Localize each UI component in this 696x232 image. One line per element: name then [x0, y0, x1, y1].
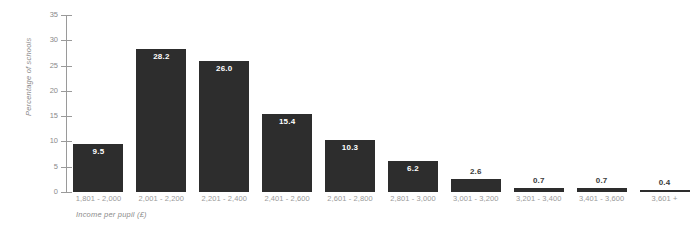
y-axis-tick-label: 25: [36, 62, 58, 70]
x-axis-tick-label: 2,601 - 2,800: [319, 194, 382, 203]
x-axis-tick-label: 2,201 - 2,400: [193, 194, 256, 203]
x-axis-tick-label: 3,401 - 3,600: [570, 194, 633, 203]
bar-value-label: 15.4: [262, 117, 312, 126]
bar-slot: 15.4: [262, 15, 312, 192]
bar[interactable]: [577, 188, 627, 192]
y-axis-title: Percentage of schools: [24, 0, 33, 116]
x-axis-tick-label: 3,001 - 3,200: [444, 194, 507, 203]
y-axis-tick-label: 15: [36, 112, 58, 120]
x-axis-tick-label: 2,401 - 2,600: [256, 194, 319, 203]
x-axis-tick-labels: 1,801 - 2,0002,001 - 2,2002,201 - 2,4002…: [67, 194, 696, 206]
y-axis-tick-mark: [61, 192, 72, 193]
x-axis-tick-label: 3,601 +: [633, 194, 696, 203]
bar[interactable]: [640, 190, 690, 192]
y-axis-tick-label: 10: [36, 137, 58, 145]
y-axis-tick-label: 20: [36, 87, 58, 95]
x-axis-title: Income per pupil (£): [76, 210, 147, 219]
bar[interactable]: [514, 188, 564, 192]
bar[interactable]: [199, 61, 249, 192]
bar-slot: 0.7: [514, 15, 564, 192]
bar-value-label: 6.2: [388, 164, 438, 173]
x-axis-tick-label: 1,801 - 2,000: [67, 194, 130, 203]
bar-value-label: 26.0: [199, 64, 249, 73]
y-axis-tick-label: 0: [36, 188, 58, 196]
bar-slot: 2.6: [451, 15, 501, 192]
bar[interactable]: [451, 179, 501, 192]
bar[interactable]: [136, 49, 186, 192]
bar-slot: 26.0: [199, 15, 249, 192]
bar-slot: 10.3: [325, 15, 375, 192]
x-axis-tick-label: 2,001 - 2,200: [130, 194, 193, 203]
bar-value-label: 10.3: [325, 143, 375, 152]
bar-value-label: 0.7: [577, 176, 627, 185]
bar-value-label: 28.2: [136, 52, 186, 61]
bar-value-label: 0.7: [514, 176, 564, 185]
bar-value-label: 0.4: [640, 178, 690, 187]
x-axis-tick-label: 2,801 - 3,000: [382, 194, 445, 203]
bar-slot: 28.2: [136, 15, 186, 192]
y-axis-tick-label: 5: [36, 163, 58, 171]
bar-chart: Percentage of schools 05101520253035 9.5…: [0, 0, 696, 232]
y-axis-tick-label: 35: [36, 11, 58, 19]
bar-slot: 6.2: [388, 15, 438, 192]
y-axis-tick-label: 30: [36, 36, 58, 44]
bar-slot: 0.4: [640, 15, 690, 192]
plot-area: 9.528.226.015.410.36.22.60.70.70.4: [67, 15, 696, 192]
bar-value-label: 2.6: [451, 167, 501, 176]
bar-slot: 9.5: [73, 15, 123, 192]
x-axis-tick-label: 3,201 - 3,400: [507, 194, 570, 203]
bar-slot: 0.7: [577, 15, 627, 192]
bar-value-label: 9.5: [73, 147, 123, 156]
